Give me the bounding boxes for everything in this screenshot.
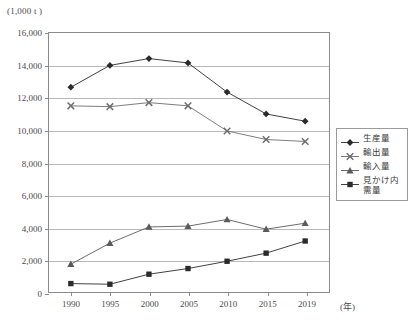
legend-item-4[interactable]: 見かけ内 需量 [340, 175, 404, 195]
data-point-square [146, 272, 151, 277]
legend-swatch [340, 148, 360, 159]
y-tick-label: 4,000 [22, 224, 42, 234]
legend-label: 生産量 [363, 133, 390, 143]
data-point-triangle [67, 261, 74, 267]
legend-item-2[interactable]: 輸出量 [340, 147, 404, 158]
data-point-square [185, 266, 190, 271]
data-point-square [107, 282, 112, 287]
legend-swatch [340, 134, 360, 145]
y-axis-unit-label: (1,000 t ) [7, 6, 42, 16]
x-tick-label: 2010 [219, 299, 237, 309]
legend-label: 見かけ内 需量 [363, 175, 399, 195]
x-tick-mark [189, 292, 190, 296]
x-tick-mark [150, 292, 151, 296]
series-3 [67, 216, 308, 267]
y-tick-label: 10,000 [17, 126, 42, 136]
legend-item-1[interactable]: 生産量 [340, 133, 404, 144]
data-point-diamond [263, 111, 270, 118]
series-2 [68, 99, 309, 144]
data-point-diamond [107, 62, 114, 69]
legend-marker-triangle [340, 165, 360, 176]
plot-area: 02,0004,0006,0008,00010,00012,00014,0001… [48, 32, 330, 293]
legend-marker-square [340, 179, 360, 190]
data-point-triangle [223, 216, 230, 222]
y-tick-label: 2,000 [22, 256, 42, 266]
legend-swatch [340, 162, 360, 173]
x-tick-label: 1990 [62, 299, 80, 309]
data-point-square [224, 259, 229, 264]
data-point-diamond [67, 84, 74, 91]
legend-swatch [340, 176, 360, 187]
data-point-x [224, 128, 231, 135]
x-tick-label: 2005 [180, 299, 198, 309]
legend-marker-diamond [340, 137, 360, 148]
series-4 [68, 238, 308, 287]
x-axis-unit-label: (年) [340, 300, 355, 313]
chart-page: (1,000 t ) 02,0004,0006,0008,00010,00012… [0, 0, 413, 331]
data-point-diamond [146, 55, 153, 62]
data-point-square [302, 238, 307, 243]
data-point-diamond [347, 139, 354, 146]
data-point-triangle [302, 220, 309, 226]
y-tick-label: 0 [38, 289, 43, 299]
data-point-diamond [224, 89, 231, 96]
x-tick-label: 2015 [259, 299, 277, 309]
y-tick-label: 6,000 [22, 191, 42, 201]
series-line [71, 241, 305, 284]
x-tick-mark [307, 292, 308, 296]
x-tick-mark [71, 292, 72, 296]
y-tick-label: 14,000 [17, 61, 42, 71]
data-point-square [263, 250, 268, 255]
x-tick-mark [110, 292, 111, 296]
x-tick-mark [268, 292, 269, 296]
y-tick-label: 16,000 [17, 28, 42, 38]
series-layer [49, 33, 329, 292]
series-1 [67, 55, 308, 124]
x-tick-label: 1995 [101, 299, 119, 309]
series-line [71, 59, 305, 122]
legend-item-3[interactable]: 輸入量 [340, 161, 404, 172]
legend-label: 輸入量 [363, 161, 390, 171]
y-tick-label: 12,000 [17, 93, 42, 103]
y-tick-label: 8,000 [22, 159, 42, 169]
legend-label: 輸出量 [363, 147, 390, 157]
x-tick-mark [228, 292, 229, 296]
data-point-square [347, 182, 352, 187]
data-point-triangle [106, 240, 113, 246]
series-line [71, 103, 305, 142]
data-point-diamond [302, 118, 309, 125]
x-tick-label: 2019 [298, 299, 316, 309]
legend-marker-x [340, 151, 360, 162]
chart-legend: 生産量輸出量輸入量見かけ内 需量 [336, 128, 408, 201]
data-point-diamond [185, 60, 192, 67]
y-tick-mark [45, 294, 49, 295]
x-tick-label: 2000 [141, 299, 159, 309]
data-point-square [68, 281, 73, 286]
